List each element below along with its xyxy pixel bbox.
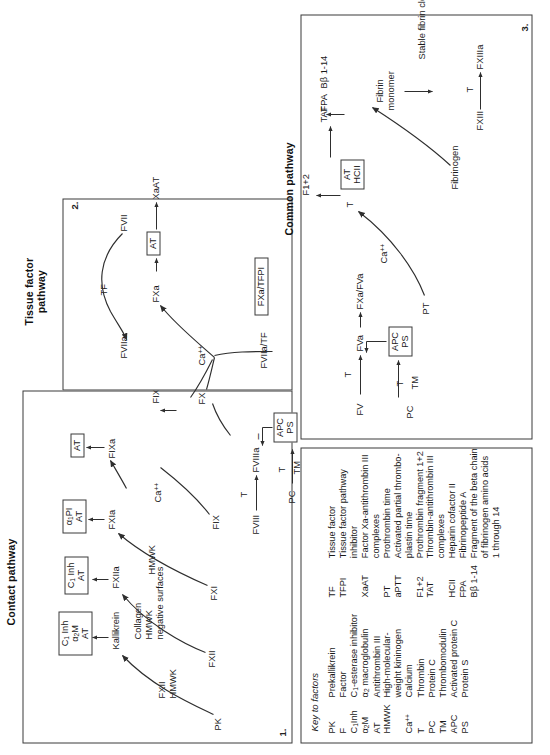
key-desc: Activated partial thrombo-plastin time — [392, 447, 414, 558]
inhibitor-box-fixa: AT — [70, 433, 84, 457]
node-fv: FV — [354, 403, 364, 415]
node-fxii-hmwk-cofactors: FXIIHMWK — [156, 669, 178, 698]
node-fxa-fva-complex: FXa/FVa — [354, 273, 364, 309]
node-t-fv: T — [342, 371, 352, 377]
key-abbr: TF — [326, 565, 337, 597]
key-desc: Calcium — [403, 601, 414, 697]
node-t-pc-common: T — [394, 380, 404, 386]
node-fvii: FVII — [118, 214, 128, 231]
node-fxiiia: FXIIIa — [474, 44, 484, 69]
node-pk: PK — [212, 718, 222, 730]
node-fva: FVa — [354, 335, 364, 351]
key-abbr: α2M — [359, 704, 370, 733]
inhibitor-box-fxa-at: AT — [146, 231, 160, 255]
node-t-fviii: T — [238, 491, 248, 497]
node-fviii: FVIII — [250, 514, 260, 534]
node-bbeta-1-14: Bβ 1-14 — [318, 55, 328, 88]
key-abbr: T — [415, 704, 426, 733]
key-desc: Factor Xa-antithrombin IIIcomplexes — [359, 447, 381, 558]
node-fxii: FXII — [206, 650, 216, 667]
key-abbr: C1Inh — [348, 704, 359, 733]
node-fixa: FIXa — [106, 438, 116, 458]
node-fpa: FPA — [318, 94, 328, 111]
node-calcium-common: Ca++ — [196, 345, 207, 365]
node-fviia: FVIIa — [118, 336, 128, 358]
key-abbr: HCII — [446, 565, 457, 597]
node-f1-2: F1+2 — [300, 174, 310, 195]
figure-frame: 1. Contact pathway PK FXIIHMWK Kallikrei… — [0, 0, 550, 755]
node-fix: FIX — [210, 515, 220, 529]
key-desc: Prothrombin fragment 1+2 — [414, 447, 425, 558]
inhibitor-box-kallikrein: C1 Inhα2MAT — [58, 611, 92, 655]
inhibitor-box-fxa-tfpi: FXa/TFPI — [254, 257, 268, 315]
inhibitor-box-at-hcii: ATHCII — [340, 159, 364, 189]
inhibitor-box-apc-ps-contact: APCPS — [273, 412, 297, 442]
key-abbr: APC — [448, 704, 459, 733]
key-abbr: FPA — [457, 565, 468, 597]
key-abbr: TFPI — [337, 565, 359, 597]
key-desc: Thrombin-antithrombin IIIcomplexes — [424, 447, 446, 558]
node-fibrinogen: Fibrinogen — [449, 145, 459, 189]
node-contact-surfaces: CollagenHMWKnegative surfaces — [132, 566, 165, 639]
key-desc: Factor — [337, 601, 348, 697]
key-abbr: PS — [459, 704, 470, 733]
node-fx: FX — [196, 392, 206, 404]
key-abbr: F1+2 — [414, 565, 425, 597]
key-desc: α2 macroglobulin — [359, 601, 370, 697]
key-abbr: F — [337, 704, 348, 733]
node-fibrin-monomer: Fibrinmonomer — [374, 71, 396, 110]
key-desc: Prekallikrein — [326, 601, 337, 697]
node-t-pc-contact: T — [276, 466, 286, 472]
node-pc-contact: PC — [286, 490, 296, 503]
node-stable-fibrin-clot: Stable fibrin clot — [416, 0, 426, 59]
key-title: Key to factors — [308, 672, 319, 731]
node-fxia: FXIa — [106, 509, 116, 529]
node-tf: TF — [98, 284, 108, 295]
node-pc-common: PC — [404, 405, 414, 418]
key-desc: High-molecular-weight kininogen — [381, 601, 403, 697]
key-desc: Heparin cofactor II — [446, 447, 457, 558]
inhibitor-box-fxiia: C1 InhAT — [64, 556, 88, 594]
key-abbr: HMWK — [381, 704, 403, 733]
title-tissue-factor-pathway: Tissue factorpathway — [22, 257, 47, 325]
key-desc: Activated protein C — [448, 601, 459, 697]
node-kallikrein: Kallikrein — [110, 611, 120, 649]
key-abbr: Bβ 1-14 — [468, 565, 501, 597]
key-abbr: TM — [437, 704, 448, 733]
key-desc: Antithrombin III — [371, 601, 382, 697]
key-abbr: PK — [326, 704, 337, 733]
label-inhibition-minus-contact: – — [250, 433, 262, 439]
key-desc: Fibrinopeptide A — [457, 447, 468, 558]
node-t-fxiii: T — [464, 86, 474, 92]
key-desc: Tissue factor — [326, 447, 337, 558]
coagulation-cascade-diagram: 1. Contact pathway PK FXIIHMWK Kallikrei… — [0, 0, 550, 755]
panel-number-common: 3. — [518, 23, 529, 31]
key-abbr: PC — [426, 704, 437, 733]
node-fxa: FXa — [150, 285, 160, 302]
node-pt: PT — [420, 302, 430, 314]
node-xaat: XaAT — [150, 176, 160, 199]
key-desc: C1-esterase inhibitor — [348, 601, 359, 697]
key-abbr: aPTT — [392, 565, 414, 597]
inhibitor-box-apc-ps-common: APCPS — [388, 326, 412, 356]
node-calcium-prothrombinase: Ca++ — [378, 243, 389, 263]
node-fviiia: FVIIIa — [250, 447, 260, 472]
title-contact-pathway: Contact pathway — [4, 538, 16, 625]
node-fxi: FXI — [208, 586, 218, 600]
title-common-pathway: Common pathway — [282, 142, 294, 235]
key-desc: Protein S — [459, 601, 470, 697]
key-desc: Thrombomodulin — [437, 601, 448, 697]
node-calcium-contact: Ca++ — [152, 482, 163, 502]
key-desc: Prothrombin time — [381, 447, 392, 558]
key-abbr: Ca++ — [403, 704, 414, 733]
key-abbr: XaAT — [359, 565, 381, 597]
key-abbr: PT — [381, 565, 392, 597]
key-desc: Thrombin — [415, 601, 426, 697]
panel-number-tissue: 2. — [68, 201, 79, 209]
key-abbr: TAT — [424, 565, 446, 597]
key-desc: Tissue factor pathwayinhibitor — [337, 447, 359, 558]
node-hmwk: HMWK — [146, 545, 156, 574]
node-thrombin-t: T — [344, 201, 354, 207]
node-fxiia: FXIIa — [110, 566, 120, 588]
panel-number-contact: 1. — [276, 728, 287, 736]
